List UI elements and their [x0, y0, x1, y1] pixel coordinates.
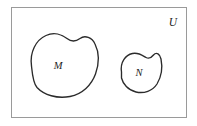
set-n-label: N: [134, 67, 143, 78]
set-m-label: M: [53, 60, 64, 71]
universal-set-label: U: [169, 16, 178, 28]
venn-diagram-canvas: U M N: [0, 0, 197, 126]
venn-diagram-figure: U M N: [0, 0, 197, 126]
